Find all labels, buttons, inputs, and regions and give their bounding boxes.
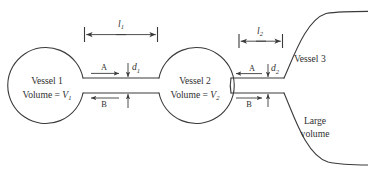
connector-1-flow-b-label: B	[101, 100, 107, 109]
vessel-3-volume-line-1: Large	[304, 115, 326, 126]
vessel-3-volume-line-2: volume	[301, 128, 330, 139]
diagram-canvas: Vessel 1 Volume = V1 Vessel 2 Volume = V…	[0, 0, 368, 180]
vessel-1-volume-subscript: 1	[68, 94, 71, 101]
connector-2-length-label: l2	[257, 25, 264, 38]
vessel-2-name-label: Vessel 2	[179, 75, 211, 86]
connector-1-flow-a-label: A	[101, 63, 107, 72]
connector-1-length-label: l1	[118, 18, 124, 31]
vessel-1-volume-prefix: Volume =	[22, 89, 62, 100]
d1-subscript: 1	[137, 67, 140, 74]
connector-2-diameter-label: d2	[271, 62, 280, 75]
vessel-1-name-label: Vessel 1	[31, 75, 63, 86]
d2-subscript: 2	[276, 68, 280, 75]
connector-2-flow-a-label: A	[249, 64, 255, 73]
vessel-3-upper-flare	[284, 11, 368, 78]
connector-1-diameter-label: d1	[132, 61, 140, 74]
vessel-2-volume-subscript: 2	[216, 94, 220, 101]
vessel-2-volume-label: Volume = V2	[170, 89, 220, 102]
l2-subscript: 2	[260, 30, 264, 37]
connector-2-flow-b-label: B	[246, 100, 252, 109]
vessel-diagram-figure: Vessel 1 Volume = V1 Vessel 2 Volume = V…	[0, 0, 368, 180]
vessel-3-name-label: Vessel 3	[294, 53, 326, 64]
vessel-2-outline-right	[230, 78, 231, 93]
l1-subscript: 1	[121, 23, 124, 30]
vessel-2-volume-prefix: Volume =	[170, 89, 210, 100]
vessel-1-volume-label: Volume = V1	[22, 89, 71, 102]
